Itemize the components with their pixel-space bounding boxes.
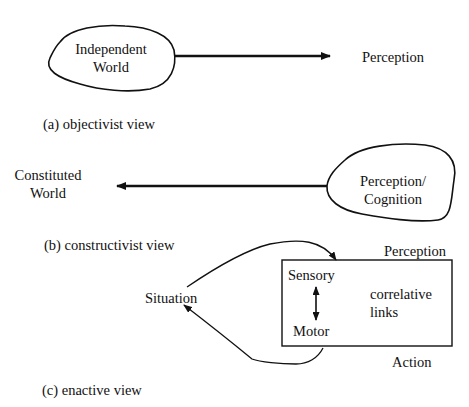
- perception-cognition-label-line1: Perception/: [360, 172, 426, 190]
- independent-world-label-line1: Independent: [75, 40, 147, 58]
- correlative-links-label-line1: correlative: [370, 285, 432, 303]
- caption-c: (c) enactive view: [42, 381, 142, 399]
- correlative-links-label-line2: links: [370, 303, 398, 321]
- perception-label-a: Perception: [362, 48, 424, 66]
- independent-world-label-line2: World: [93, 58, 129, 76]
- perception-cognition-label-line2: Cognition: [364, 190, 422, 208]
- motor-label: Motor: [293, 322, 329, 340]
- perception-label-c: Perception: [384, 242, 446, 260]
- constituted-world-label-line2: World: [30, 184, 66, 202]
- constituted-world-label-line1: Constituted: [15, 166, 82, 184]
- caption-b: (b) constructivist view: [44, 236, 174, 254]
- situation-label: Situation: [145, 289, 197, 307]
- action-label: Action: [392, 353, 431, 371]
- sensory-label: Sensory: [288, 266, 335, 284]
- caption-a: (a) objectivist view: [43, 115, 155, 133]
